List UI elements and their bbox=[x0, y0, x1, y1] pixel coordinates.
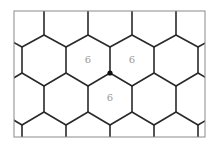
hex-label-lower: 6 bbox=[107, 92, 113, 103]
highlighted-vertex-dot bbox=[107, 70, 112, 75]
hexagonal-tiling-diagram: 6 6 6 bbox=[0, 0, 219, 146]
hex-label-upper-left: 6 bbox=[85, 54, 91, 65]
hex-label-upper-right: 6 bbox=[129, 54, 135, 65]
